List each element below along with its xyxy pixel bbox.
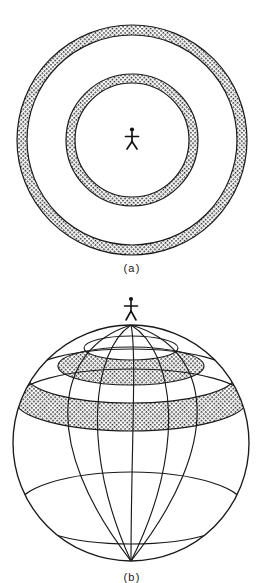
inner-ring-stipple-fill	[0, 0, 264, 290]
concentric-rings-diagram	[0, 0, 264, 290]
figure-panel-b	[0, 290, 264, 583]
globe-wireframe-diagram	[0, 290, 264, 583]
panel-b-caption: (b)	[0, 571, 264, 583]
panel-a-caption: (a)	[0, 262, 264, 274]
figure-panel-a	[0, 0, 264, 290]
figure-page: (a)	[0, 0, 264, 583]
